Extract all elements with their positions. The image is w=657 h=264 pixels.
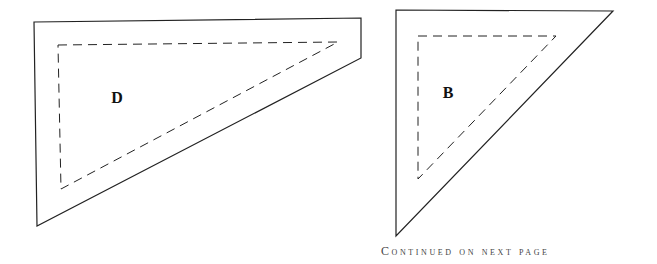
piece-b-cutting-line (396, 10, 613, 236)
piece-d-label: D (111, 89, 123, 107)
continued-note: Continued on next page (381, 244, 550, 259)
piece-b-label: B (443, 84, 454, 102)
pattern-diagram (0, 0, 657, 264)
piece-d-cutting-line (34, 18, 361, 226)
piece-d-seam-line (58, 42, 338, 189)
piece-b-seam-line (418, 36, 556, 179)
